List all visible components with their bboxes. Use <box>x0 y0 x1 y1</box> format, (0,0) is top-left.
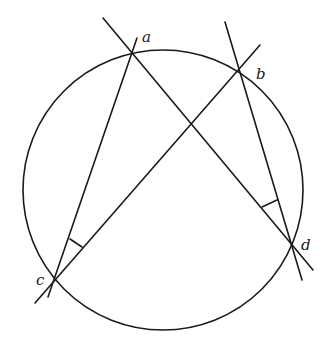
line-ac <box>48 38 137 297</box>
circle-theorem-diagram: a b c d <box>0 0 334 345</box>
point-d-label: d <box>301 236 311 254</box>
line-bd <box>225 22 302 280</box>
line-bc <box>35 45 260 303</box>
circle <box>23 50 303 330</box>
angle-acb-mark <box>70 239 82 247</box>
point-c-label: c <box>36 271 45 289</box>
line-ad <box>103 18 313 270</box>
angle-adb-mark <box>262 200 277 207</box>
point-b-label: b <box>256 65 266 83</box>
point-a-label: a <box>142 28 151 46</box>
